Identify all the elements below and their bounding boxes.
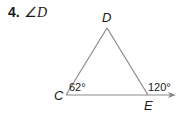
angle-label-c: 62°: [69, 81, 86, 93]
side-de: [107, 28, 148, 95]
angle-label-e-exterior: 120°: [148, 81, 171, 93]
vertex-label-c: C: [54, 88, 64, 103]
vertex-label-d: D: [102, 10, 111, 25]
vertex-label-e: E: [144, 98, 153, 113]
triangle-diagram: D C E 62° 120°: [0, 0, 182, 116]
